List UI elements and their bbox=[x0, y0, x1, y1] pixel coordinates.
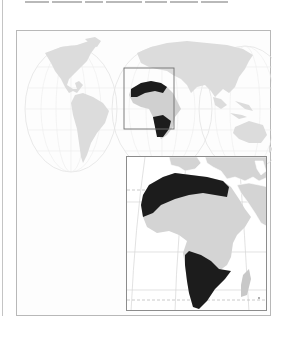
africa-inset bbox=[127, 157, 267, 311]
americas-landmass bbox=[45, 37, 109, 163]
clipped-caption-text bbox=[25, 0, 230, 5]
clipped-text-glyphs bbox=[25, 0, 230, 5]
madagascar bbox=[241, 269, 251, 297]
page-edge-line bbox=[2, 0, 3, 316]
island-marker bbox=[258, 297, 260, 299]
africa-inset-map bbox=[126, 156, 267, 311]
africa-world bbox=[129, 81, 181, 139]
map-figure bbox=[16, 30, 271, 316]
